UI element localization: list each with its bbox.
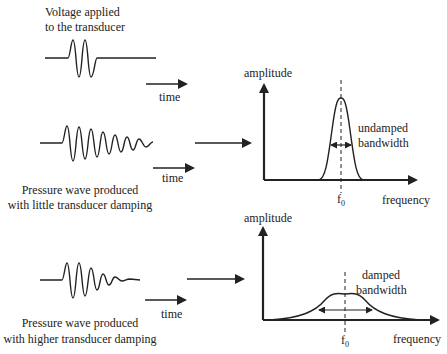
bottom-ylabel: amplitude: [244, 211, 292, 225]
voltage-pulse-waveform: [45, 40, 156, 77]
voltage-label-line2: to the transducer: [45, 20, 125, 34]
damped-caption-line1: Pressure wave produced: [0, 316, 160, 330]
undamped-caption-line1: Pressure wave produced: [0, 183, 160, 197]
top-f0-label: f0: [337, 192, 345, 211]
damped-caption-line2: with higher transducer damping: [0, 332, 160, 346]
bottom-annotation-line1: damped: [362, 268, 400, 282]
bottom-xlabel: frequency: [393, 332, 441, 346]
voltage-label-line1: Voltage applied: [45, 5, 120, 19]
time-label-3: time: [161, 307, 182, 321]
bottom-annotation-line2: bandwidth: [356, 283, 407, 297]
top-annotation-line1: undamped: [358, 121, 408, 135]
undamped-pressure-waveform: [40, 126, 153, 161]
undamped-caption-line2: with little transducer damping: [0, 198, 160, 212]
top-xlabel: frequency: [382, 193, 430, 207]
time-label-2: time: [162, 171, 183, 185]
top-annotation-line2: bandwidth: [358, 136, 409, 150]
top-ylabel: amplitude: [244, 66, 292, 80]
bottom-f0-label: f0: [341, 333, 349, 352]
time-label-1: time: [159, 90, 180, 104]
damped-pressure-waveform: [40, 263, 140, 298]
diagram-canvas: [0, 0, 447, 354]
